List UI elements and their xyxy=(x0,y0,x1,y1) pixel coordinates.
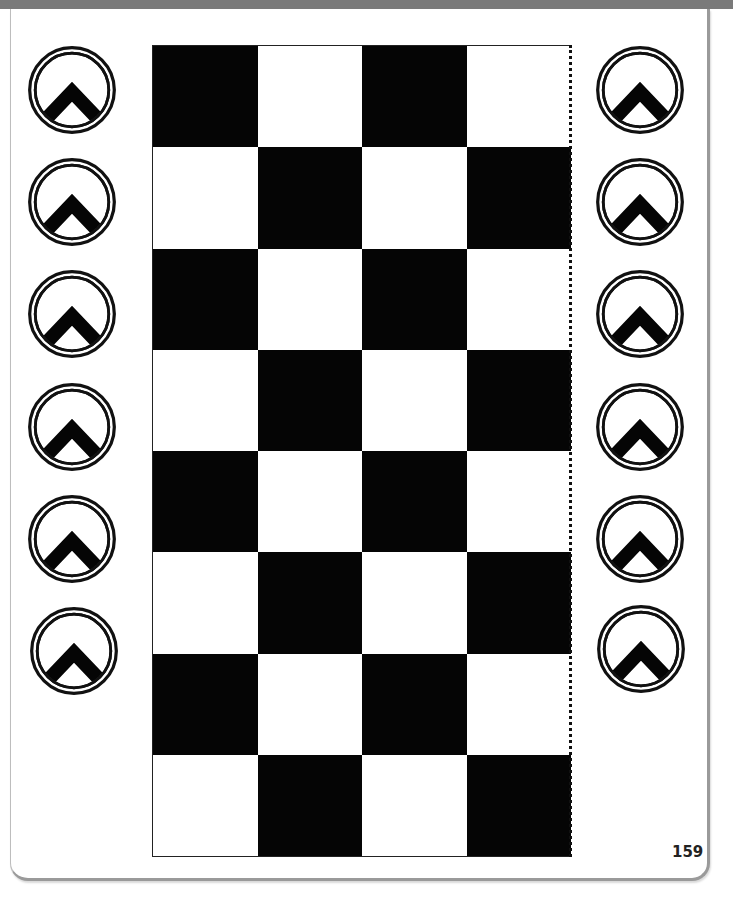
board-square-light xyxy=(362,147,467,248)
board-square-light xyxy=(153,350,258,451)
game-token-right-2[interactable] xyxy=(594,156,686,248)
board-square-dark xyxy=(153,46,258,147)
board-square-dark xyxy=(362,249,467,350)
board-square-light xyxy=(258,46,363,147)
chevron-up-circle-icon xyxy=(594,268,686,360)
board-square-light xyxy=(153,552,258,653)
game-token-right-4[interactable] xyxy=(594,381,686,473)
board-square-dark xyxy=(467,350,572,451)
board-square-light xyxy=(258,249,363,350)
chevron-up-circle-icon xyxy=(594,44,686,136)
game-token-right-5[interactable] xyxy=(594,493,686,585)
checkerboard xyxy=(152,45,571,857)
board-square-light xyxy=(362,552,467,653)
chevron-up-circle-icon xyxy=(26,493,118,585)
chevron-up-circle-icon xyxy=(594,493,686,585)
page-number: 159 xyxy=(672,843,703,861)
game-token-left-5[interactable] xyxy=(26,493,118,585)
board-square-light xyxy=(362,755,467,856)
chevron-up-circle-icon xyxy=(26,44,118,136)
chevron-up-circle-icon xyxy=(594,156,686,248)
game-token-left-1[interactable] xyxy=(26,44,118,136)
board-square-dark xyxy=(258,147,363,248)
board-square-dark xyxy=(258,552,363,653)
game-token-left-4[interactable] xyxy=(26,381,118,473)
dotted-cut-line xyxy=(569,45,572,857)
board-square-dark xyxy=(153,451,258,552)
board-square-dark xyxy=(153,654,258,755)
board-square-dark xyxy=(362,46,467,147)
board-square-light xyxy=(153,755,258,856)
board-square-dark xyxy=(467,552,572,653)
chevron-up-circle-icon xyxy=(26,156,118,248)
game-token-right-3[interactable] xyxy=(594,268,686,360)
chevron-up-circle-icon xyxy=(26,381,118,473)
game-token-right-6[interactable] xyxy=(595,603,687,695)
board-square-light xyxy=(258,654,363,755)
game-token-left-2[interactable] xyxy=(26,156,118,248)
board-square-dark xyxy=(362,451,467,552)
board-square-dark xyxy=(467,147,572,248)
chevron-up-circle-icon xyxy=(594,381,686,473)
board-square-light xyxy=(258,451,363,552)
board-square-dark xyxy=(258,350,363,451)
game-token-right-1[interactable] xyxy=(594,44,686,136)
chevron-up-circle-icon xyxy=(28,605,120,697)
chevron-up-circle-icon xyxy=(595,603,687,695)
header-bar xyxy=(0,0,733,9)
game-token-left-3[interactable] xyxy=(26,268,118,360)
board-square-light xyxy=(362,350,467,451)
board-square-dark xyxy=(153,249,258,350)
board-square-light xyxy=(467,451,572,552)
board-square-dark xyxy=(467,755,572,856)
board-square-light xyxy=(467,46,572,147)
game-token-left-6[interactable] xyxy=(28,605,120,697)
board-square-light xyxy=(467,654,572,755)
chevron-up-circle-icon xyxy=(26,268,118,360)
board-square-dark xyxy=(362,654,467,755)
board-square-light xyxy=(153,147,258,248)
board-square-light xyxy=(467,249,572,350)
board-square-dark xyxy=(258,755,363,856)
